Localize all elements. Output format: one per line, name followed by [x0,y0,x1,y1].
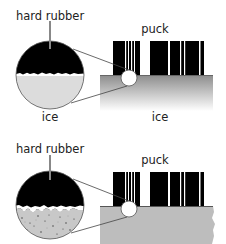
magnified-ice-label: ice [42,110,59,122]
diagram-smooth-ice: hard rubber ice puck ice [0,0,226,122]
puck [113,41,204,75]
puck [113,172,204,206]
diagram-rough-surface: hard rubber puck [0,122,226,244]
diagram-smooth-ice-graphic: hard rubber ice puck ice [0,0,226,122]
contact-point-circle [121,70,137,86]
rough-surface [100,206,215,244]
puck-label: puck [141,153,169,167]
magnified-view [14,170,86,242]
ice-surface [100,75,213,111]
hard-rubber-label: hard rubber [16,9,85,23]
magnified-view [14,40,86,111]
surface-ice-label: ice [152,110,169,122]
puck-label: puck [141,22,169,36]
diagram-rough-surface-graphic: hard rubber puck [0,122,226,244]
hard-rubber-label: hard rubber [16,142,85,156]
contact-point-circle [121,201,137,217]
